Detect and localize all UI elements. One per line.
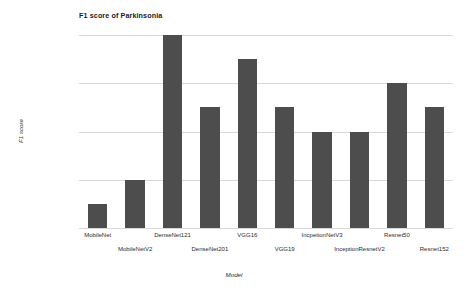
y-axis-title: F1 score <box>17 119 24 143</box>
bar <box>387 83 406 228</box>
plot-area <box>79 35 453 228</box>
bar <box>238 59 257 228</box>
bar <box>350 132 369 229</box>
y-axis-tick-labels: 0.90.920.940.960.98 <box>0 0 79 292</box>
x-tick-label: Resnet152 <box>420 246 449 252</box>
x-tick-label: VGG19 <box>275 246 295 252</box>
bar <box>88 204 107 228</box>
x-tick-label: Resnet50 <box>384 232 410 238</box>
x-tick-label: DenseNet201 <box>192 246 229 252</box>
bar <box>275 107 294 228</box>
bars-layer <box>79 35 453 228</box>
bar <box>163 35 182 228</box>
x-tick-label: MobileNet <box>84 232 111 238</box>
chart-title: F1 score of Parkinsonia <box>79 11 162 20</box>
bar <box>425 107 444 228</box>
x-tick-label: VGG16 <box>237 232 257 238</box>
bar <box>312 132 331 229</box>
x-tick-label: DenseNet121 <box>154 232 191 238</box>
x-axis-title: Model <box>226 271 243 278</box>
bar <box>125 180 144 228</box>
x-axis-tick-labels: MobileNetMobileNetV2DenseNet121DenseNet2… <box>79 228 453 262</box>
bar-chart: F1 score of Parkinsonia 0.90.920.940.960… <box>0 0 469 292</box>
x-tick-label: InceptionResnetV2 <box>334 246 385 252</box>
x-tick-label: IncpetionNetV3 <box>302 232 343 238</box>
bar <box>200 107 219 228</box>
x-tick-label: MobileNetV2 <box>118 246 152 252</box>
